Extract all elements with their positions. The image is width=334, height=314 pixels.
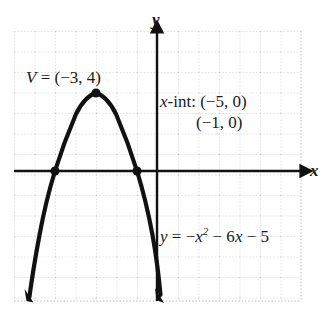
x-axis-label: x	[310, 162, 319, 179]
x-intercept-annotation-line2: (−1, 0)	[196, 114, 242, 131]
x-intercept-annotation-line1: x-int: (−5, 0)	[160, 93, 247, 110]
y-axis-label: y	[152, 11, 160, 28]
vertex-equals: = (	[36, 68, 60, 87]
vertex-point	[91, 88, 100, 97]
x-intercept-x-symbol: x	[160, 92, 168, 111]
vertex-separator: ,	[78, 68, 87, 87]
x-intercept-right-point	[132, 166, 141, 175]
vertex-symbol: V	[26, 68, 36, 87]
x-intercept-left-point	[50, 166, 59, 175]
vertex-x-value: −3	[60, 68, 78, 87]
vertex-y-value: 4	[87, 68, 96, 87]
vertex-annotation: V = (−3, 4)	[26, 69, 101, 86]
equation-lhs: y	[160, 227, 168, 246]
equation-equals: = −	[168, 227, 196, 246]
equation-annotation: y = −x2 − 6x − 5	[160, 226, 269, 245]
x-intercept-first-point: −5, 0)	[206, 92, 247, 111]
vertex-close-paren: )	[95, 68, 101, 87]
x-intercept-label-text: -int: (	[168, 92, 206, 111]
equation-variable-1: x	[195, 227, 203, 246]
graph-canvas	[0, 0, 334, 314]
equation-term-3: − 5	[242, 227, 269, 246]
equation-term-2: − 6	[208, 227, 235, 246]
parabola-graph-figure: y x V = (−3, 4) x-int: (−5, 0) (−1, 0) y…	[0, 0, 334, 314]
